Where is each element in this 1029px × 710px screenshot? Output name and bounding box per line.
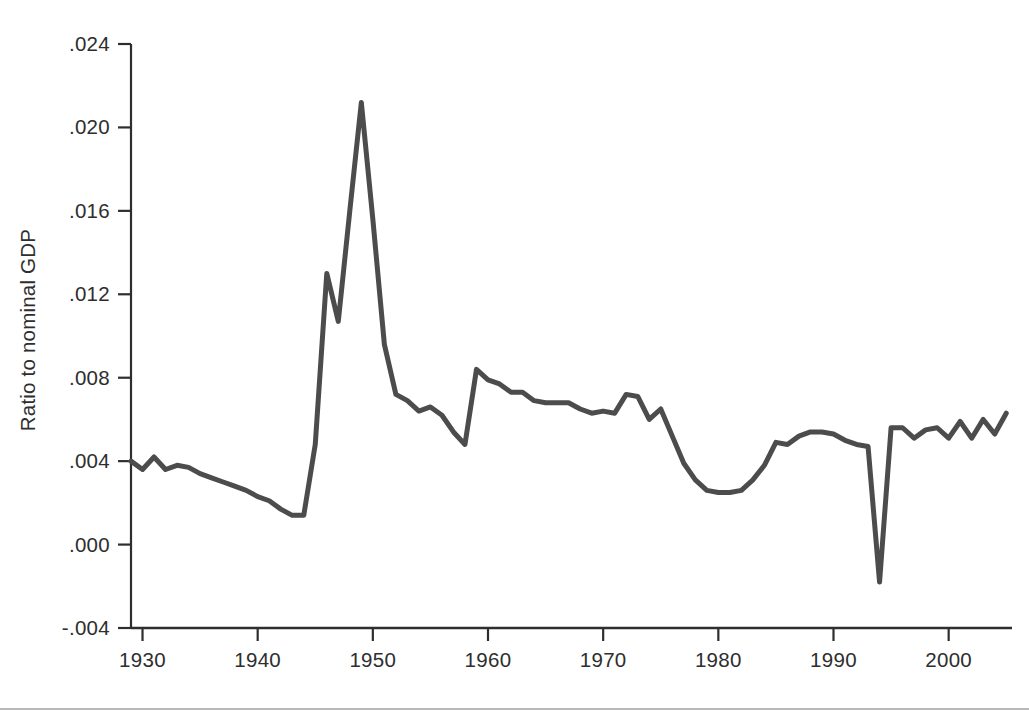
y-tick-label: .012 xyxy=(20,282,110,306)
x-tick-label: 1980 xyxy=(695,648,742,672)
y-axis-ticks xyxy=(118,44,131,628)
x-tick-label: 1970 xyxy=(580,648,627,672)
y-tick-label: .004 xyxy=(20,449,110,473)
chart-figure: Ratio to nominal GDP -.004.000.004.008.0… xyxy=(0,0,1029,710)
data-line-ratio-to-nominal-gdp xyxy=(131,102,1006,582)
data-series-group xyxy=(131,102,1006,582)
y-tick-label: .024 xyxy=(20,32,110,56)
x-tick-label: 1940 xyxy=(234,648,281,672)
y-tick-label: .000 xyxy=(20,533,110,557)
line-chart-plot xyxy=(0,0,1029,710)
y-tick-label: -.004 xyxy=(20,616,110,640)
y-tick-label: .020 xyxy=(20,115,110,139)
x-tick-label: 1930 xyxy=(119,648,166,672)
x-tick-label: 2000 xyxy=(925,648,972,672)
x-tick-label: 1990 xyxy=(810,648,857,672)
x-tick-label: 1950 xyxy=(349,648,396,672)
x-axis-ticks xyxy=(143,628,949,641)
y-tick-label: .008 xyxy=(20,366,110,390)
x-tick-label: 1960 xyxy=(465,648,512,672)
y-tick-label: .016 xyxy=(20,199,110,223)
